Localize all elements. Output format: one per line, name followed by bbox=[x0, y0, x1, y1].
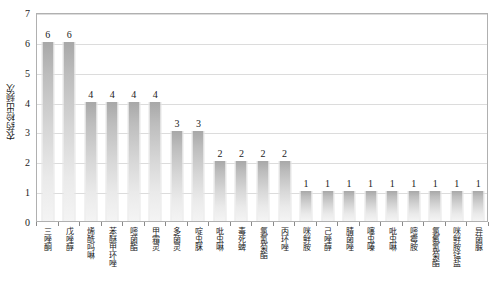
bar-value-label: 4 bbox=[88, 89, 93, 100]
x-axis-category-label: 噻虫嗪 bbox=[364, 227, 376, 255]
bar-slot[interactable]: 4 bbox=[102, 14, 124, 221]
bar-slot[interactable]: 3 bbox=[166, 14, 188, 221]
bar[interactable] bbox=[429, 191, 442, 221]
x-tick bbox=[316, 222, 317, 226]
x-axis-category-label: 咪鲜胺 bbox=[299, 227, 311, 255]
x-axis-category-label-text: 噻虫嗪 bbox=[366, 227, 374, 251]
bar-slot[interactable]: 1 bbox=[424, 14, 446, 221]
bar-slot[interactable]: 4 bbox=[123, 14, 145, 221]
bars-container: 664444332222111111111 bbox=[37, 14, 487, 221]
bar[interactable] bbox=[63, 42, 76, 221]
bar[interactable] bbox=[343, 191, 356, 221]
bar-slot[interactable]: 4 bbox=[145, 14, 167, 221]
bar[interactable] bbox=[386, 191, 399, 221]
x-axis-category-label-text: 氯氟氰菊酯 bbox=[430, 227, 438, 267]
bar-slot[interactable]: 6 bbox=[59, 14, 81, 221]
bar-slot[interactable]: 1 bbox=[403, 14, 425, 221]
y-tick-label: 0 bbox=[25, 217, 30, 228]
x-axis-category-label-text: 甲霜灵 bbox=[150, 227, 158, 251]
x-tick bbox=[101, 222, 102, 226]
x-axis-category-label-text: 嘧霉胺 bbox=[409, 227, 417, 251]
bar-slot[interactable]: 2 bbox=[231, 14, 253, 221]
bar[interactable] bbox=[235, 161, 248, 221]
bar-slot[interactable]: 1 bbox=[317, 14, 339, 221]
bar-value-label: 4 bbox=[153, 89, 158, 100]
bar[interactable] bbox=[472, 191, 485, 221]
bar[interactable] bbox=[450, 191, 463, 221]
bar-value-label: 1 bbox=[433, 178, 438, 189]
x-axis-category-label-text: 啶虫脒 bbox=[193, 227, 201, 251]
bar-slot[interactable]: 2 bbox=[274, 14, 296, 221]
bar-slot[interactable]: 1 bbox=[295, 14, 317, 221]
x-axis-category-label: 腈菌唑 bbox=[342, 227, 354, 255]
bar-slot[interactable]: 2 bbox=[252, 14, 274, 221]
bar-slot[interactable]: 1 bbox=[446, 14, 468, 221]
bar[interactable] bbox=[364, 191, 377, 221]
x-axis-category-label: 甲霜灵 bbox=[148, 227, 160, 255]
bar[interactable] bbox=[213, 161, 226, 221]
x-tick bbox=[187, 222, 188, 226]
y-tick-label: 6 bbox=[25, 37, 30, 48]
bar-value-label: 2 bbox=[217, 148, 222, 159]
x-tick bbox=[230, 222, 231, 226]
x-axis-category-label: 多菌灵 bbox=[170, 227, 182, 255]
x-tick bbox=[79, 222, 80, 226]
bar-slot[interactable]: 6 bbox=[37, 14, 59, 221]
bar[interactable] bbox=[278, 161, 291, 221]
x-axis-category-label-text: 咪鲜胺 bbox=[301, 227, 309, 251]
bar[interactable] bbox=[300, 191, 313, 221]
bar-value-label: 1 bbox=[390, 178, 395, 189]
bar[interactable] bbox=[84, 102, 97, 221]
x-tick bbox=[423, 222, 424, 226]
x-axis-category-label: 嘧菌酯 bbox=[127, 227, 139, 255]
x-tick bbox=[122, 222, 123, 226]
x-axis-category-label-text: 戊唑醇 bbox=[64, 227, 72, 251]
x-tick bbox=[337, 222, 338, 226]
bar-slot[interactable]: 3 bbox=[188, 14, 210, 221]
x-axis-category-label: 戊唑醇 bbox=[62, 227, 74, 255]
x-tick bbox=[165, 222, 166, 226]
bar-slot[interactable]: 2 bbox=[209, 14, 231, 221]
x-tick bbox=[294, 222, 295, 226]
bar-slot[interactable]: 1 bbox=[467, 14, 489, 221]
x-axis-category-label-text: 嘧菌酯 bbox=[129, 227, 137, 251]
bar-value-label: 6 bbox=[45, 29, 50, 40]
bar[interactable] bbox=[149, 102, 162, 221]
x-axis-category-label-text: 苯醚甲环唑 bbox=[107, 227, 115, 267]
x-axis-category-label: 己唑醇 bbox=[321, 227, 333, 255]
x-axis-category-label-text: 异菌脲 bbox=[473, 227, 481, 251]
x-tick bbox=[466, 222, 467, 226]
x-axis-category-label: 氯氰菊酯 bbox=[256, 227, 268, 263]
bar-chart: 农药检出频次 01234567 664444332222111111111 三唑… bbox=[0, 0, 496, 303]
y-tick-label: 7 bbox=[25, 8, 30, 19]
x-axis-category-label: 毒死蜱 bbox=[234, 227, 246, 255]
x-axis-category-label-text: 多菌灵 bbox=[172, 227, 180, 251]
bar-slot[interactable]: 4 bbox=[80, 14, 102, 221]
bar-slot[interactable]: 1 bbox=[360, 14, 382, 221]
x-tick bbox=[36, 222, 37, 226]
bar-value-label: 4 bbox=[110, 89, 115, 100]
bar-value-label: 2 bbox=[282, 148, 287, 159]
x-tick bbox=[359, 222, 360, 226]
bar[interactable] bbox=[106, 102, 119, 221]
bar-slot[interactable]: 1 bbox=[338, 14, 360, 221]
bar[interactable] bbox=[256, 161, 269, 221]
bar-slot[interactable]: 1 bbox=[381, 14, 403, 221]
bar-value-label: 1 bbox=[304, 178, 309, 189]
x-tick bbox=[273, 222, 274, 226]
bar-value-label: 3 bbox=[174, 118, 179, 129]
bar[interactable] bbox=[41, 42, 54, 221]
bar-value-label: 1 bbox=[454, 178, 459, 189]
x-axis-category-label-text: 氯氰菊酯 bbox=[258, 227, 266, 259]
bar[interactable] bbox=[192, 131, 205, 221]
bar[interactable] bbox=[170, 131, 183, 221]
x-tick bbox=[251, 222, 252, 226]
x-tick bbox=[144, 222, 145, 226]
x-tick bbox=[402, 222, 403, 226]
plot-area: 664444332222111111111 bbox=[36, 13, 488, 222]
x-axis-category-label-text: 吡虫啉 bbox=[387, 227, 395, 251]
bar[interactable] bbox=[321, 191, 334, 221]
bar[interactable] bbox=[407, 191, 420, 221]
x-axis-category-label-text: 丙环唑 bbox=[280, 227, 288, 251]
bar[interactable] bbox=[127, 102, 140, 221]
